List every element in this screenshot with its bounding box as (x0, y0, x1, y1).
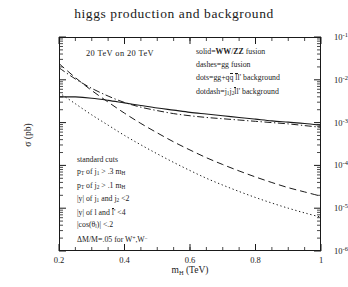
cuts-heading: standard cuts (77, 154, 148, 166)
legend-prefix-dots: dots= (196, 73, 213, 82)
y-axis-label: σ (pb) (23, 105, 33, 165)
standard-cuts-annotation: standard cuts pT of j1 > .3 mH pT of j2 … (77, 154, 148, 246)
x-tick-label: 0.8 (236, 255, 276, 265)
legend-entry-dashes: dashes=gg fusion (196, 58, 280, 71)
x-tick-label: 0.4 (105, 255, 145, 265)
cut-line-pt-j2: pT of j2 > .1 mH (77, 180, 148, 194)
x-tick-label: 1 (301, 255, 341, 265)
x-tick-label: 0.2 (39, 255, 79, 265)
y-tick-label: 10-5 (295, 202, 348, 213)
legend-prefix-solid: solid= (196, 47, 216, 56)
legend-prefix-dashes: dashes= (196, 60, 221, 69)
cut-line-costheta: |cos(θl)| <.2 (77, 219, 148, 233)
legend: solid=WW/ZZ fusion dashes=gg fusion dots… (196, 45, 280, 100)
x-axis-label-subscript: H (179, 269, 184, 276)
x-axis-label-unit: (TeV) (186, 265, 209, 275)
figure-root: higgs production and background 10-110-2… (0, 0, 348, 287)
beam-energy-annotation: 20 TeV on 20 TeV (86, 48, 154, 59)
legend-entry-solid: solid=WW/ZZ fusion (196, 45, 280, 58)
cut-line-y-leptons: |y| of l and l' <4 (77, 207, 148, 219)
curve-dotdash (59, 68, 321, 127)
legend-entry-dotdash: dotdash=j1j2ll' background (196, 85, 280, 101)
legend-entry-dots: dots=gg+qq ll' background (196, 71, 280, 84)
x-axis-label: mH (TeV) (59, 265, 321, 276)
y-tick-label: 10-4 (295, 159, 348, 170)
plot-canvas (0, 0, 348, 287)
y-tick-label: 10-3 (295, 117, 348, 128)
y-tick-label: 10-2 (295, 74, 348, 85)
x-axis-label-symbol: m (172, 265, 179, 275)
legend-prefix-dotdash: dotdash= (196, 87, 225, 96)
cut-line-mass-resolution: ΔM/M=.05 for W+,W− (77, 233, 148, 246)
curve-solid (59, 97, 321, 125)
y-tick-label: 10-1 (295, 31, 348, 42)
cut-line-y-jets: |y| of j1 and j2 <2 (77, 193, 148, 207)
cut-line-pt-j1: pT of j1 > .3 mH (77, 166, 148, 180)
x-tick-label: 0.6 (170, 255, 210, 265)
